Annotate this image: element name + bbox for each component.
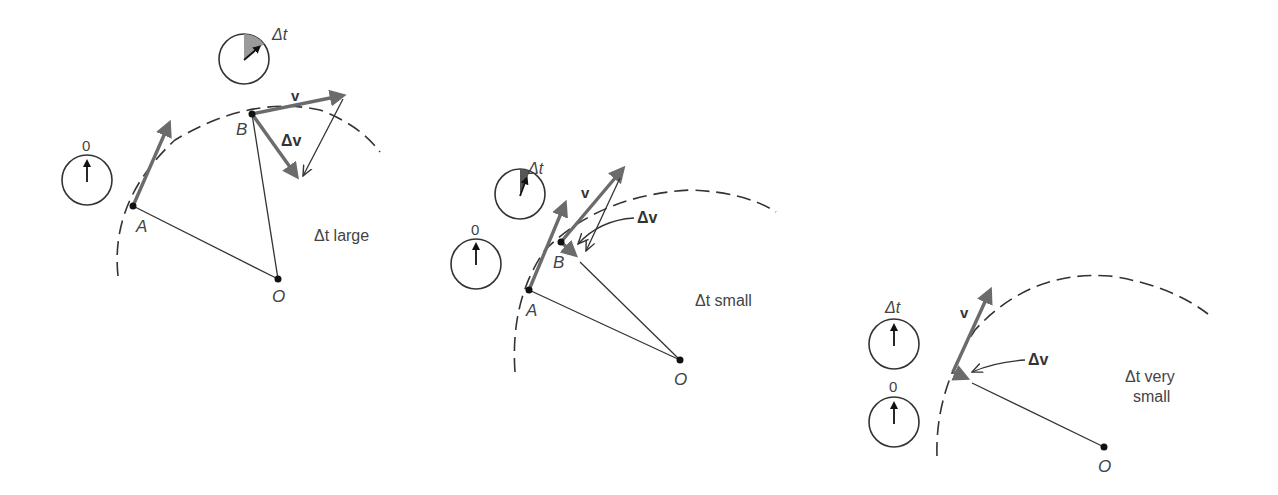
point-b (249, 111, 256, 118)
center-label: O (1098, 457, 1111, 476)
delta-v-label: Δv (637, 209, 658, 226)
velocity-vector-b (561, 171, 621, 242)
point-a (526, 287, 533, 294)
center-label: O (674, 370, 687, 389)
point-b-label: B (236, 120, 247, 139)
point-b-label: B (553, 253, 564, 272)
clock-start-label: 0 (471, 221, 479, 238)
delta-v-pointer (578, 218, 634, 244)
delta-v-pointer (972, 360, 1025, 372)
delta-v-label: Δv (281, 132, 302, 149)
panel-caption-line1: Δt very (1125, 368, 1175, 385)
center-point (677, 357, 684, 364)
radius-oa (529, 290, 680, 360)
point-b (558, 239, 565, 246)
circular-path-arc (937, 275, 1208, 456)
velocity-label: v (291, 87, 300, 104)
center-point (275, 276, 282, 283)
delta-v-vector (953, 372, 964, 377)
construction-line (586, 178, 620, 251)
clock-end-icon (869, 319, 919, 369)
radius-ob (252, 114, 278, 279)
panel-dt-small: A B O v Δv Δt small 0 Δt (451, 160, 776, 389)
panel-dt-large: A B O v Δv Δt large 0 Δt (62, 26, 380, 306)
clock-end-label: Δt (271, 26, 288, 43)
panel-dt-very-small: O v Δv Δt very small Δt 0 (869, 275, 1208, 476)
clock-start-label: 0 (889, 378, 897, 395)
delta-v-label: Δv (1028, 351, 1049, 368)
velocity-vector-a (133, 126, 168, 206)
clock-start-icon (62, 155, 112, 205)
center-label: O (272, 287, 285, 306)
velocity-vector-a (529, 206, 564, 290)
clock-start-icon (451, 239, 501, 289)
radius-oa (133, 206, 278, 279)
circular-motion-diagram: A B O v Δv Δt large 0 Δt A B (0, 0, 1278, 495)
radius-ob (580, 262, 680, 360)
clock-start-icon (869, 397, 919, 447)
velocity-label: v (960, 304, 969, 321)
clock-end-label: Δt (884, 299, 901, 316)
center-point (1101, 444, 1108, 451)
clock-end-label: Δt (527, 160, 544, 177)
panel-caption: Δt small (695, 292, 752, 309)
point-a (130, 203, 137, 210)
point-a-label: A (525, 301, 537, 320)
clock-end-icon (219, 34, 269, 84)
circular-path-arc (117, 106, 380, 276)
point-a-label: A (135, 217, 147, 236)
radius-line (972, 383, 1104, 447)
velocity-vector (953, 293, 989, 372)
clock-start-label: 0 (82, 137, 90, 154)
panel-caption: Δt large (314, 227, 369, 244)
velocity-label: v (581, 184, 590, 201)
panel-caption-line2: small (1133, 388, 1170, 405)
